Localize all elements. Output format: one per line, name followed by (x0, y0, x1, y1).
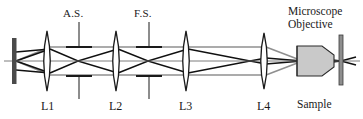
lens-l4-label: L4 (257, 99, 270, 114)
field-stop-label: F.S. (134, 7, 152, 19)
lens-l4-glass (261, 33, 268, 89)
lens-l2-label: L2 (109, 99, 122, 114)
objective-label-line-1: Microscope (288, 5, 342, 19)
lens-l1-glass (44, 31, 51, 91)
optical-diagram-figure: A.S. F.S. L1 L2 L3 L4 Microscope Objecti… (0, 0, 363, 119)
lens-l1-label: L1 (41, 99, 54, 114)
lens-l2-glass (113, 31, 120, 91)
sample-plane-bar (339, 35, 343, 85)
objective-barrel (297, 46, 334, 76)
aperture-stop-label: A.S. (63, 7, 83, 19)
source-bar (12, 38, 17, 84)
objective-label-line-2: Objective (288, 18, 333, 32)
lens-l3-label: L3 (179, 99, 192, 114)
lens-l3-glass (183, 31, 190, 91)
sample-label: Sample (297, 98, 332, 110)
